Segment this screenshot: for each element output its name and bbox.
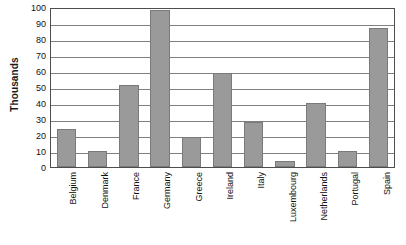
plot-area [50, 8, 395, 168]
x-tick-label: Ireland [226, 172, 235, 200]
bar-slot [238, 9, 269, 167]
bar-slot [82, 9, 113, 167]
x-label-slot: Spain [364, 170, 395, 245]
bar-luxembourg[interactable] [275, 161, 294, 167]
bar-belgium[interactable] [57, 129, 76, 167]
x-tick-label: France [132, 172, 141, 200]
x-label-slot: Italy [238, 170, 269, 245]
bar-germany[interactable] [150, 10, 169, 167]
bar-chart-figure: Thousands 0102030405060708090100 Belgium… [0, 0, 406, 245]
y-tick-label: 30 [36, 116, 46, 125]
bars-layer [51, 9, 394, 167]
bar-slot [113, 9, 144, 167]
x-label-slot: Greece [175, 170, 206, 245]
bar-slot [332, 9, 363, 167]
y-axis-tick-labels: 0102030405060708090100 [28, 8, 48, 168]
x-tick-label: Denmark [101, 172, 110, 209]
y-tick-label: 90 [36, 20, 46, 29]
bar-spain[interactable] [369, 28, 388, 167]
bar-slot [51, 9, 82, 167]
y-axis-title: Thousands [0, 0, 28, 168]
y-tick-label: 0 [41, 164, 46, 173]
x-label-slot: Netherlands [301, 170, 332, 245]
x-label-slot: Belgium [50, 170, 81, 245]
x-tick-label: Italy [257, 172, 266, 189]
bar-slot [176, 9, 207, 167]
bar-denmark[interactable] [88, 151, 107, 167]
bar-netherlands[interactable] [306, 103, 325, 167]
x-label-slot: Ireland [207, 170, 238, 245]
bar-slot [145, 9, 176, 167]
x-label-slot: Germany [144, 170, 175, 245]
x-label-slot: Luxembourg [270, 170, 301, 245]
x-tick-label: Luxembourg [289, 172, 298, 222]
x-tick-label: Greece [195, 172, 204, 202]
y-axis-title-label: Thousands [9, 57, 20, 111]
y-tick-label: 60 [36, 68, 46, 77]
x-label-slot: Portugal [332, 170, 363, 245]
x-label-slot: France [113, 170, 144, 245]
y-tick-label: 40 [36, 100, 46, 109]
y-tick-label: 100 [31, 4, 46, 13]
bar-portugal[interactable] [338, 151, 357, 167]
x-tick-label: Portugal [351, 172, 360, 206]
bar-france[interactable] [119, 85, 138, 167]
bar-slot [301, 9, 332, 167]
bar-slot [207, 9, 238, 167]
bar-ireland[interactable] [213, 73, 232, 167]
bar-greece[interactable] [182, 137, 201, 167]
y-tick-label: 50 [36, 84, 46, 93]
x-axis-tick-labels: BelgiumDenmarkFranceGermanyGreeceIreland… [50, 170, 395, 245]
x-tick-label: Spain [383, 172, 392, 195]
x-tick-label: Germany [163, 172, 172, 209]
y-tick-label: 70 [36, 52, 46, 61]
y-tick-label: 20 [36, 132, 46, 141]
x-tick-label: Belgium [69, 172, 78, 205]
bar-slot [363, 9, 394, 167]
y-tick-label: 80 [36, 36, 46, 45]
y-tick-label: 10 [36, 148, 46, 157]
x-label-slot: Denmark [81, 170, 112, 245]
bar-slot [269, 9, 300, 167]
bar-italy[interactable] [244, 122, 263, 167]
x-tick-label: Netherlands [320, 172, 329, 221]
